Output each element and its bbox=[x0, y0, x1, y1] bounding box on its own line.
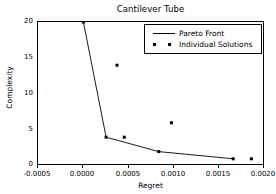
data-point-marker bbox=[105, 136, 108, 139]
x-tick-label: -0.0005 bbox=[15, 170, 59, 178]
x-tick-label: 0.0005 bbox=[106, 170, 150, 178]
data-point-marker bbox=[123, 136, 126, 139]
y-tick-label: 20 bbox=[3, 18, 33, 25]
x-tick-label: 0.0020 bbox=[241, 170, 276, 178]
data-point-marker bbox=[170, 121, 173, 124]
data-point-marker bbox=[82, 22, 85, 24]
y-tick-label: 5 bbox=[3, 126, 33, 133]
legend-entry-pareto-front: Pareto Front bbox=[149, 28, 257, 39]
x-tick-label: 0.0015 bbox=[196, 170, 240, 178]
y-axis-tick-labels: 20 15 10 5 0 bbox=[0, 0, 33, 194]
legend-label: Pareto Front bbox=[179, 29, 224, 38]
y-tick-label: 0 bbox=[3, 161, 33, 168]
legend-entry-individual-solutions: Individual Solutions bbox=[149, 39, 257, 50]
data-point-marker bbox=[116, 64, 119, 67]
legend-line-icon bbox=[149, 28, 179, 39]
chart-title: Cantilever Tube bbox=[37, 4, 264, 14]
data-point-marker bbox=[250, 157, 253, 160]
x-axis-label: Regret bbox=[37, 181, 264, 190]
chart-figure: Cantilever Tube Complexity 20 15 10 5 0 … bbox=[0, 0, 276, 194]
legend-label: Individual Solutions bbox=[179, 40, 252, 49]
chart-legend: Pareto Front Individual Solutions bbox=[144, 24, 262, 54]
data-point-marker bbox=[232, 157, 235, 160]
x-tick-label: 0.0010 bbox=[151, 170, 195, 178]
legend-dot-marker-icon bbox=[149, 39, 179, 50]
data-point-marker bbox=[157, 150, 160, 153]
y-tick-label: 15 bbox=[3, 54, 33, 61]
y-tick-label: 10 bbox=[3, 90, 33, 97]
x-tick-label: 0.0000 bbox=[60, 170, 104, 178]
